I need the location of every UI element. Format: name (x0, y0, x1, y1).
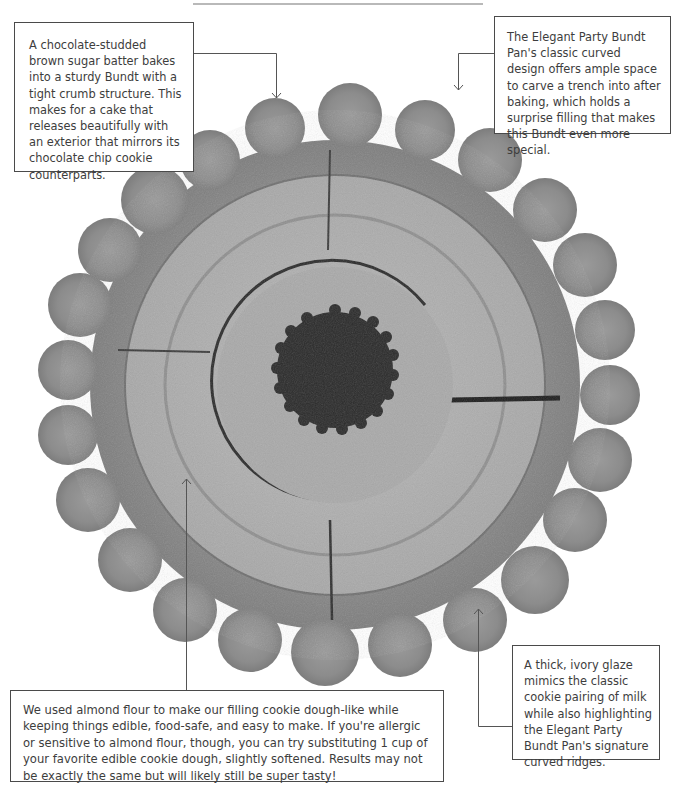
callout-filling-text: We used almond flour to make our filling… (23, 702, 433, 784)
callout-batter-text: A chocolate-studded brown sugar batter b… (29, 37, 183, 183)
callout-batter: A chocolate-studded brown sugar batter b… (14, 22, 194, 172)
callout-filling: We used almond flour to make our filling… (10, 690, 444, 782)
callout-glaze: A thick, ivory glaze mimics the classic … (512, 645, 660, 760)
callout-pan-design-text: The Elegant Party Bundt Pan's classic cu… (507, 29, 662, 159)
callout-pan-design: The Elegant Party Bundt Pan's classic cu… (494, 16, 671, 134)
callout-glaze-text: A thick, ivory glaze mimics the classic … (524, 657, 653, 770)
